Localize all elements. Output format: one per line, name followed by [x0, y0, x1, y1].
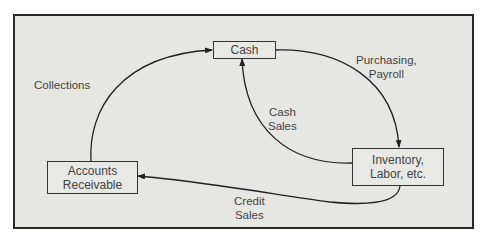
cash-node: Cash	[213, 41, 276, 59]
inventory-node: Inventory, Labor, etc.	[352, 148, 444, 186]
cash-sales-arrow	[242, 59, 352, 163]
credit-sales-label: Credit Sales	[234, 194, 265, 222]
receivable-node: Accounts Receivable	[47, 161, 138, 194]
purchasing-label-line1: Purchasing,	[356, 53, 417, 67]
credit-sales-label-line1: Credit	[234, 194, 265, 208]
purchasing-label: Purchasing, Payroll	[356, 53, 417, 81]
cash-sales-label-line2: Sales	[268, 119, 297, 133]
collections-label: Collections	[34, 78, 90, 92]
receivable-node-line2: Receivable	[63, 178, 122, 192]
cash-sales-label: Cash Sales	[268, 105, 297, 133]
receivable-node-line1: Accounts	[68, 164, 117, 178]
cash-node-label: Cash	[230, 43, 258, 57]
credit-sales-label-line2: Sales	[234, 208, 265, 222]
inventory-node-line2: Labor, etc.	[370, 167, 426, 181]
inventory-node-line1: Inventory,	[372, 153, 424, 167]
collections-arrow	[91, 50, 212, 161]
purchasing-label-line2: Payroll	[356, 67, 417, 81]
cash-sales-label-line1: Cash	[268, 105, 297, 119]
